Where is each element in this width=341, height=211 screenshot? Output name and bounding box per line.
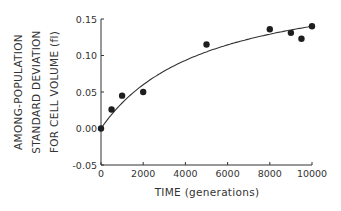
x-axis-title: TIME (generations): [154, 186, 260, 198]
x-tick-label: 0: [98, 168, 104, 179]
data-point: [203, 41, 209, 47]
data-point: [298, 36, 304, 42]
x-tick-label: 4000: [173, 168, 197, 179]
axes: [101, 19, 312, 165]
y-tick-label: 0.10: [76, 50, 97, 61]
y-tick-label: 0.00: [76, 123, 97, 134]
x-tick-label: 8000: [258, 168, 282, 179]
data-points: [98, 23, 315, 132]
data-point: [288, 30, 294, 36]
y-axis-title: AMONG-POPULATIONSTANDARD DEVIATIONFOR CE…: [12, 30, 60, 154]
y-axis-title-line: STANDARD DEVIATION: [30, 30, 42, 154]
y-axis-title-line: AMONG-POPULATION: [12, 34, 24, 150]
data-point: [267, 26, 273, 32]
data-point: [108, 106, 114, 112]
data-point: [309, 23, 315, 29]
y-tick-label: 0.05: [76, 87, 97, 98]
chart: AMONG-POPULATIONSTANDARD DEVIATIONFOR CE…: [0, 0, 341, 211]
y-axis-ticks: -0.050.000.050.100.15: [72, 14, 104, 171]
data-point: [140, 89, 146, 95]
data-point: [98, 125, 104, 131]
y-axis-title-line: FOR CELL VOLUME (fl): [48, 31, 60, 153]
x-tick-label: 10000: [297, 168, 327, 179]
y-tick-label: -0.05: [72, 160, 97, 171]
y-tick-label: 0.15: [76, 14, 97, 25]
data-point: [119, 92, 125, 98]
x-tick-label: 2000: [131, 168, 155, 179]
x-tick-label: 6000: [216, 168, 240, 179]
